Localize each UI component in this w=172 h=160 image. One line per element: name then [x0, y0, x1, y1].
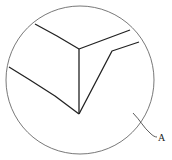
reference-label-A: A: [158, 132, 166, 143]
upper-left-edge: [35, 24, 79, 49]
lower-right-edge: [79, 42, 139, 114]
upper-right-edge: [79, 30, 130, 49]
left-curved-edge: [9, 67, 79, 114]
detail-view-diagram: A: [0, 0, 172, 160]
leader-line: [133, 113, 157, 137]
detail-circle: [6, 6, 154, 154]
